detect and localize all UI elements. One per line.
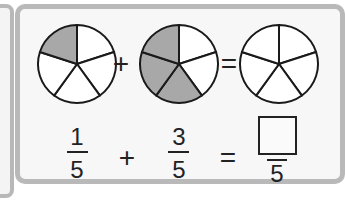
fraction-one-fifth: 1 5 — [67, 123, 88, 183]
fraction-circle-first-addend — [38, 25, 116, 103]
answer-box[interactable] — [259, 117, 296, 154]
equation-equals-sign: = — [220, 142, 236, 173]
circle-plus-sign: + — [113, 48, 129, 79]
answer-fraction: 5 — [259, 117, 296, 187]
fraction-circle-sum — [240, 25, 318, 103]
fraction-circles — [38, 25, 318, 103]
denominator: 5 — [270, 160, 283, 187]
equation-plus-sign: + — [119, 142, 135, 173]
denominator: 5 — [172, 156, 185, 183]
numerator: 1 — [70, 123, 83, 150]
denominator: 5 — [70, 156, 83, 183]
fraction-three-fifths: 3 5 — [168, 123, 189, 183]
circle-equals-sign: = — [221, 48, 237, 79]
numerator: 3 — [172, 123, 185, 150]
fraction-circle-second-addend — [140, 25, 218, 103]
